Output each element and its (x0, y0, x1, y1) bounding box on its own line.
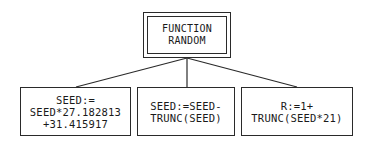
child-node-seed-fraction: SEED:=SEED- TRUNC(SEED) (137, 87, 235, 136)
connector-right (187, 58, 297, 87)
child-1-line-1: SEED:= (56, 94, 95, 106)
child-1-line-3: +31.415917 (43, 118, 108, 130)
structure-diagram: FUNCTION RANDOM SEED:= SEED*27.182813 +3… (0, 0, 373, 144)
root-node-function-random: FUNCTION RANDOM (143, 12, 231, 58)
child-node-seed-update: SEED:= SEED*27.182813 +31.415917 (20, 87, 131, 136)
root-node-inner-border: FUNCTION RANDOM (147, 16, 227, 54)
child-2-line-1: SEED:=SEED- (150, 100, 222, 112)
child-3-line-2: TRUNC(SEED*21) (251, 112, 342, 124)
child-2-line-2: TRUNC(SEED) (150, 112, 222, 124)
child-3-line-1: R:=1+ (281, 100, 314, 112)
root-label-line-1: FUNCTION (162, 23, 212, 35)
connector-left (76, 58, 187, 87)
child-node-result: R:=1+ TRUNC(SEED*21) (241, 87, 353, 136)
root-label-line-2: RANDOM (168, 35, 205, 47)
child-1-line-2: SEED*27.182813 (30, 106, 121, 118)
